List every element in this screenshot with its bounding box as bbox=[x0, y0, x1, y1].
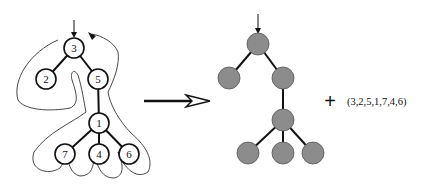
shape-node bbox=[272, 142, 294, 164]
shape-node bbox=[247, 33, 269, 55]
left-tree-edges bbox=[46, 48, 129, 154]
svg-text:7: 7 bbox=[62, 148, 68, 160]
tree-node-1: 1 bbox=[89, 113, 109, 133]
right-tree-nodes bbox=[218, 33, 324, 164]
shape-node bbox=[237, 142, 259, 164]
shape-node bbox=[272, 67, 294, 89]
svg-text:3: 3 bbox=[71, 42, 77, 54]
svg-text:5: 5 bbox=[95, 73, 101, 85]
svg-text:2: 2 bbox=[43, 73, 49, 85]
tree-node-4: 4 bbox=[89, 144, 109, 164]
tree-node-3: 3 bbox=[64, 38, 84, 58]
shape-node bbox=[272, 109, 294, 131]
transform-arrow-icon bbox=[144, 95, 210, 107]
right-tree-edges bbox=[229, 44, 313, 153]
plus-sign: + bbox=[324, 90, 336, 112]
svg-text:6: 6 bbox=[126, 148, 132, 160]
tree-node-6: 6 bbox=[119, 144, 139, 164]
label-sequence: (3,2,5,1,7,4,6) bbox=[347, 96, 407, 108]
shape-node bbox=[218, 67, 240, 89]
tree-diagram: 3 2 5 1 7 4 6 + (3,2,5,1,7,4,6) bbox=[0, 0, 423, 192]
tree-node-7: 7 bbox=[55, 144, 75, 164]
svg-text:1: 1 bbox=[96, 117, 102, 129]
shape-node bbox=[302, 142, 324, 164]
left-tree-nodes: 3 2 5 1 7 4 6 bbox=[36, 38, 139, 164]
tree-node-5: 5 bbox=[88, 69, 108, 89]
tree-node-2: 2 bbox=[36, 69, 56, 89]
svg-text:4: 4 bbox=[96, 148, 102, 160]
